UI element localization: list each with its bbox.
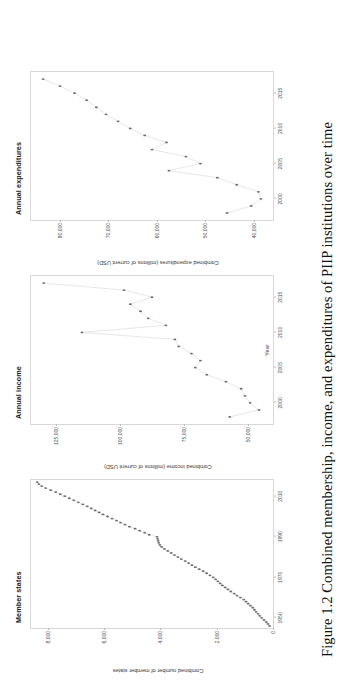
y-tick-annual-expenditures: 70,000: [105, 223, 111, 238]
x-tick-annual-income: 2005: [277, 362, 283, 373]
plot-area-annual-expenditures: 40,00050,00060,00070,00080,0002000200520…: [30, 71, 274, 221]
panel-row: Member states Combined number of member …: [8, 67, 308, 679]
y-tick-annual-expenditures: 80,000: [57, 223, 63, 238]
y-tick-member-states: 0: [270, 631, 276, 634]
y-tick-member-states: 6,000: [101, 631, 107, 644]
figure-page: Member states Combined number of member …: [0, 0, 350, 687]
y-tick-member-states: 8,000: [45, 631, 51, 644]
x-axis-title-annual-income: Year: [264, 275, 270, 425]
x-tick-annual-expenditures: 2005: [277, 158, 283, 169]
y-tick-annual-income: 125,000: [53, 427, 59, 445]
y-axis-title-annual-expenditures: Combined expenditures (millions of curre…: [8, 257, 308, 269]
y-tick-member-states: 4,000: [157, 631, 163, 644]
x-tick-member-states: 1990: [277, 531, 283, 542]
y-tick-annual-expenditures: 40,000: [251, 223, 257, 238]
plot-frame-annual-income: 50,00075,000100,000125,00020002005201020…: [30, 275, 274, 425]
y-tick-annual-expenditures: 50,000: [202, 223, 208, 238]
panel-title-member-states: Member states: [14, 571, 23, 623]
y-axis-title-member-states: Combined number of member states: [8, 665, 308, 677]
panel-annual-expenditures: Annual expenditures Combined expenditure…: [8, 67, 308, 271]
rotated-figure-stage: Member states Combined number of member …: [0, 0, 350, 687]
y-tick-annual-income: 100,000: [117, 427, 123, 445]
y-axis-title-label-annual-expenditures: Combined expenditures (millions of curre…: [97, 260, 219, 266]
x-tick-annual-expenditures: 2010: [277, 123, 283, 134]
plot-frame-member-states: 02,0004,0006,0008,0001950197019902010: [30, 479, 274, 629]
y-axis-title-label-member-states: Combined number of member states: [113, 668, 204, 674]
y-tick-annual-income: 75,000: [181, 427, 187, 442]
x-tick-member-states: 1950: [277, 612, 283, 623]
y-axis-title-label-annual-income: Combined income (millions of current USD…: [104, 464, 212, 470]
x-tick-annual-expenditures: 2015: [277, 88, 283, 99]
plot-frame-annual-expenditures: 40,00050,00060,00070,00080,0002000200520…: [30, 71, 274, 221]
figure-caption: Figure 1.2 Combined membership, income, …: [319, 14, 336, 657]
y-axis-title-annual-income: Combined income (millions of current USD…: [8, 461, 308, 473]
x-tick-annual-income: 2000: [277, 397, 283, 408]
panel-annual-income: Annual income Combined income (millions …: [8, 271, 308, 475]
plot-area-annual-income: 50,00075,000100,000125,00020002005201020…: [30, 275, 274, 425]
y-tick-member-states: 2,000: [214, 631, 220, 644]
series-annual-income: [31, 276, 273, 424]
series-member-states: [31, 480, 273, 628]
series-annual-expenditures: [31, 72, 273, 220]
figure-body: Member states Combined number of member …: [0, 0, 350, 687]
x-tick-annual-expenditures: 2000: [277, 193, 283, 204]
y-tick-annual-expenditures: 60,000: [154, 223, 160, 238]
panel-title-annual-income: Annual income: [14, 366, 23, 419]
x-tick-annual-income: 2015: [277, 292, 283, 303]
y-tick-annual-income: 50,000: [245, 427, 251, 442]
panel-title-annual-expenditures: Annual expenditures: [14, 142, 23, 215]
x-tick-member-states: 1970: [277, 572, 283, 583]
panel-member-states: Member states Combined number of member …: [8, 475, 308, 679]
x-tick-member-states: 2010: [277, 491, 283, 502]
x-tick-annual-income: 2010: [277, 327, 283, 338]
plot-area-member-states: 02,0004,0006,0008,0001950197019902010: [30, 479, 274, 629]
